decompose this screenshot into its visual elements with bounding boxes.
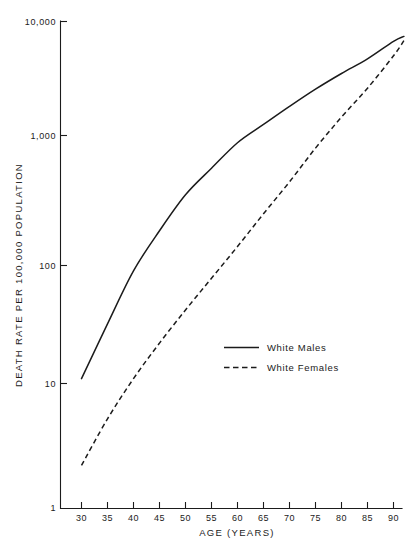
semilog-line-chart: 10,000 1,000 100 10 1 30 35 40 45 50 bbox=[0, 0, 405, 541]
x-tick-label-30: 30 bbox=[76, 513, 87, 523]
chart-figure: 10,000 1,000 100 10 1 30 35 40 45 50 bbox=[0, 0, 405, 541]
x-tick-label-75: 75 bbox=[310, 513, 321, 523]
x-tick-label-80: 80 bbox=[336, 513, 347, 523]
x-tick-label-60: 60 bbox=[232, 513, 243, 523]
x-tick-label-85: 85 bbox=[362, 513, 373, 523]
y-axis-title: DEATH RATE PER 100,000 POPULATION bbox=[13, 163, 24, 387]
legend-label-white-males: White Males bbox=[267, 342, 326, 353]
x-tick-label-50: 50 bbox=[180, 513, 191, 523]
chart-legend: White Males White Females bbox=[224, 342, 339, 373]
x-tick-label-55: 55 bbox=[206, 513, 217, 523]
x-tick-label-90: 90 bbox=[388, 513, 399, 523]
x-axis-title: AGE (YEARS) bbox=[199, 527, 275, 538]
x-tick-label-35: 35 bbox=[102, 513, 113, 523]
x-tick-label-65: 65 bbox=[258, 513, 269, 523]
x-tick-label-45: 45 bbox=[154, 513, 165, 523]
y-tick-label-10000: 10,000 bbox=[25, 17, 56, 27]
axis-group bbox=[61, 21, 403, 509]
y-tick-label-100: 100 bbox=[39, 261, 56, 271]
x-tick-label-40: 40 bbox=[128, 513, 139, 523]
legend-label-white-females: White Females bbox=[267, 362, 339, 373]
series-line-white-males bbox=[82, 36, 404, 378]
x-axis-ticks: 30 35 40 45 50 55 60 65 70 75 80 85 bbox=[76, 502, 399, 523]
data-series-group bbox=[82, 36, 404, 465]
y-tick-label-1: 1 bbox=[50, 503, 56, 513]
x-tick-label-70: 70 bbox=[284, 513, 295, 523]
series-line-white-females bbox=[82, 41, 404, 466]
y-tick-label-10: 10 bbox=[45, 379, 56, 389]
y-tick-label-1000: 1,000 bbox=[30, 131, 56, 141]
